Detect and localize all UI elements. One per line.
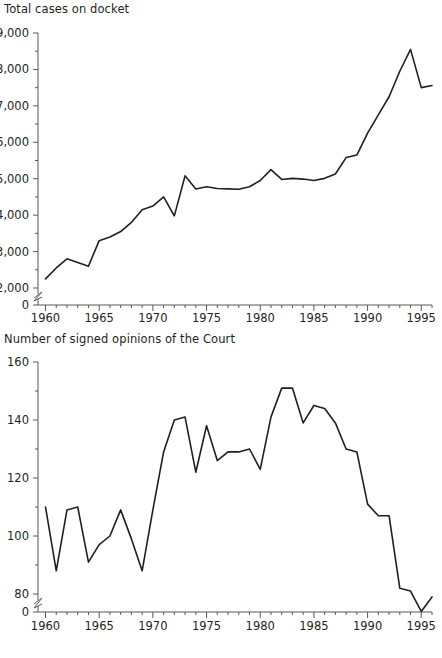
x-tick-label: 1970 xyxy=(138,311,167,325)
y-tick-label: 160 xyxy=(7,355,29,369)
x-tick-label: 1970 xyxy=(138,619,167,633)
y-tick-label: 0 xyxy=(22,605,29,619)
x-tick-label: 1990 xyxy=(353,311,382,325)
y-tick-label: 8,000 xyxy=(0,62,29,76)
x-tick-label: 1985 xyxy=(299,619,328,633)
y-tick-label: 140 xyxy=(7,413,29,427)
y-tick-label: 4,000 xyxy=(0,208,29,222)
y-tick-label: 6,000 xyxy=(0,135,29,149)
x-tick-label: 1980 xyxy=(246,619,275,633)
y-tick-label: 5,000 xyxy=(0,172,29,186)
x-tick-label: 1965 xyxy=(85,619,114,633)
x-tick-label: 1965 xyxy=(85,311,114,325)
data-series-line xyxy=(46,388,432,611)
x-tick-label: 1990 xyxy=(353,619,382,633)
y-tick-label: 7,000 xyxy=(0,99,29,113)
y-tick-label: 0 xyxy=(22,298,29,312)
y-tick-label: 100 xyxy=(7,529,29,543)
x-tick-label: 1960 xyxy=(31,311,60,325)
data-series-line xyxy=(46,49,432,279)
signed-opinions-line-chart: 0801001201401601960196519701975198019851… xyxy=(0,330,442,658)
y-tick-label: 3,000 xyxy=(0,245,29,259)
x-tick-label: 1995 xyxy=(407,311,436,325)
x-tick-label: 1980 xyxy=(246,311,275,325)
y-tick-label: 9,000 xyxy=(0,26,29,40)
y-tick-label: 80 xyxy=(14,587,29,601)
figure-page: Total cases on docket 02,0003,0004,0005,… xyxy=(0,0,442,658)
total-cases-line-chart: 02,0003,0004,0005,0006,0007,0008,0009,00… xyxy=(0,0,442,330)
y-tick-label: 120 xyxy=(7,471,29,485)
chart-panel-signed-opinions: Number of signed opinions of the Court 0… xyxy=(0,330,442,658)
x-tick-label: 1995 xyxy=(407,619,436,633)
x-tick-label: 1985 xyxy=(299,311,328,325)
y-tick-label: 2,000 xyxy=(0,281,29,295)
x-tick-label: 1960 xyxy=(31,619,60,633)
x-tick-label: 1975 xyxy=(192,311,221,325)
axes-group: 0801001201401601960196519701975198019851… xyxy=(7,355,436,633)
chart-panel-total-cases: Total cases on docket 02,0003,0004,0005,… xyxy=(0,0,442,330)
axes-group: 02,0003,0004,0005,0006,0007,0008,0009,00… xyxy=(0,26,436,325)
x-tick-label: 1975 xyxy=(192,619,221,633)
